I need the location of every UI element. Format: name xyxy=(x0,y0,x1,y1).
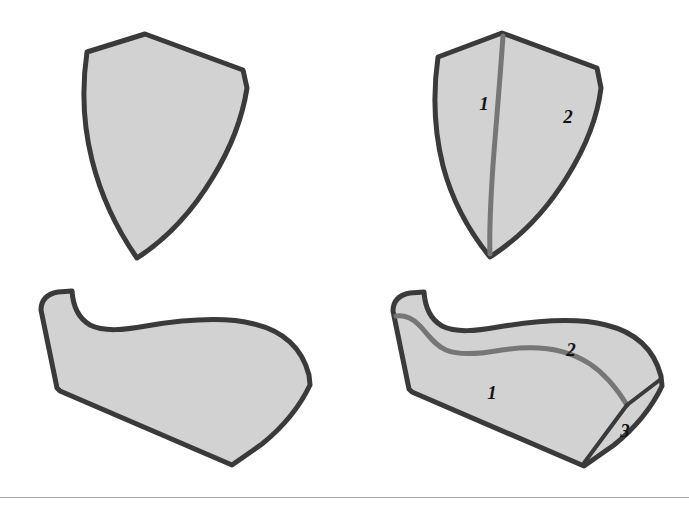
top-left-wedge-body xyxy=(84,34,247,258)
panel-top-left xyxy=(84,34,247,258)
panel-top-right: 1 2 xyxy=(435,33,601,257)
footer-separator-rule xyxy=(0,497,689,498)
figure-illustration: 1 2 1 2 3 xyxy=(0,0,689,509)
top-right-region-label-1: 1 xyxy=(479,93,489,114)
bottom-right-region-label-2: 2 xyxy=(565,339,576,360)
panel-bottom-left xyxy=(41,291,310,465)
bottom-left-block-body xyxy=(41,291,310,465)
top-right-wedge-body xyxy=(435,33,601,257)
bottom-right-region-label-3: 3 xyxy=(619,420,630,441)
top-right-region-label-2: 2 xyxy=(562,106,573,127)
figure-container: 1 2 1 2 3 xyxy=(0,0,689,509)
panel-bottom-right: 1 2 3 xyxy=(393,292,662,466)
bottom-right-region-label-1: 1 xyxy=(487,382,497,403)
